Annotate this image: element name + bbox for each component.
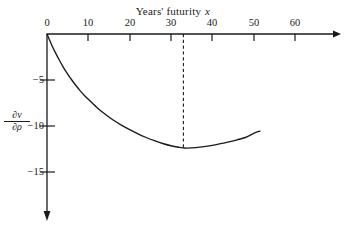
axes-group: [44, 31, 341, 221]
y-axis-arrow-icon: [44, 211, 51, 221]
x-axis-ticks: [88, 34, 295, 41]
x-axis-arrow-icon: [333, 31, 341, 38]
chart-figure: Years' futurityx ∂v ∂ρ 0 10 20 30 40 50 …: [0, 0, 346, 230]
plot-area: [0, 0, 346, 230]
data-series-curve: [47, 34, 260, 148]
